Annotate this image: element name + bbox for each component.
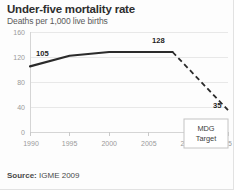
ytick-label-160: 160 bbox=[13, 29, 25, 36]
chart-title: Under-five mortality rate bbox=[7, 3, 135, 15]
ytick-label-80: 80 bbox=[17, 79, 25, 86]
source-value: IGME 2009 bbox=[39, 171, 79, 180]
plot-area: 160 120 80 40 0 1990 1995 2000 2005 2010 bbox=[0, 28, 234, 160]
data-label-105: 105 bbox=[36, 49, 49, 58]
data-label-35: 35 bbox=[213, 101, 222, 110]
xtick-label-1995: 1995 bbox=[62, 140, 78, 147]
chart-canvas: 160 120 80 40 0 1990 1995 2000 2005 2010 bbox=[0, 28, 234, 160]
chart-figure: Under-five mortality rate Deaths per 1,0… bbox=[0, 0, 234, 190]
ytick-label-0: 0 bbox=[21, 129, 25, 136]
series-line-observed bbox=[30, 52, 173, 66]
xtick-label-2005: 2005 bbox=[141, 140, 157, 147]
figure-bottom-border bbox=[0, 189, 234, 190]
gridlines bbox=[30, 32, 228, 107]
y-tick-labels: 160 120 80 40 0 bbox=[13, 29, 25, 136]
ytick-label-120: 120 bbox=[13, 54, 25, 61]
xtick-label-2000: 2000 bbox=[101, 140, 117, 147]
source-note: Source: IGME 2009 bbox=[7, 171, 80, 180]
data-label-128: 128 bbox=[152, 36, 165, 45]
ytick-label-40: 40 bbox=[17, 104, 25, 111]
mdg-target-line1: MDG bbox=[197, 124, 214, 133]
xtick-label-1990: 1990 bbox=[23, 140, 39, 147]
source-label: Source: bbox=[7, 171, 37, 180]
mdg-target-line2: Target bbox=[196, 134, 217, 143]
chart-subtitle: Deaths per 1,000 live births bbox=[7, 16, 108, 26]
mdg-target-callout: MDG Target bbox=[184, 119, 228, 148]
